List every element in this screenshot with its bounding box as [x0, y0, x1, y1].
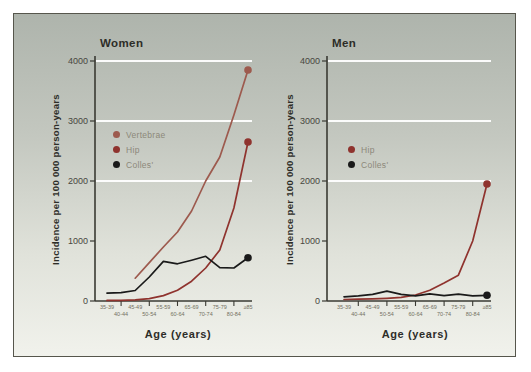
y-tick-label: 4000: [300, 56, 320, 66]
y-tick-label: 2000: [68, 176, 88, 186]
x-tick-label: ≥85: [243, 304, 252, 310]
men-chart-title: Men: [332, 37, 356, 49]
series-end-dot-colles: [483, 292, 491, 300]
men-y-axis-label: Incidence per 100 000 person-years: [284, 55, 295, 305]
y-tick-label: 3000: [300, 116, 320, 126]
women-chart-title: Women: [100, 37, 143, 49]
legend-item-hip: Hip: [113, 142, 166, 157]
men-x-axis-label: Age (years): [335, 328, 495, 340]
figure: 0100020003000400035-3940-4445-4950-5455-…: [0, 0, 531, 372]
x-tick-label: 75-79: [451, 304, 465, 310]
series-end-dot-colles: [244, 254, 252, 262]
legend-item-hip-men: Hip: [348, 142, 388, 157]
y-tick-label: 0: [83, 296, 88, 306]
y-tick-label: 4000: [68, 56, 88, 66]
x-tick-label: 45-49: [366, 304, 380, 310]
legend-label-hip: Hip: [126, 145, 140, 155]
women-legend: Vertebrae Hip Colles': [113, 127, 166, 172]
series-line-vertebrae: [135, 70, 248, 278]
x-tick-label: ≥85: [482, 304, 491, 310]
legend-label-colles-men: Colles': [361, 160, 388, 170]
y-tick-label: 1000: [68, 236, 88, 246]
vertebrae-dot-icon: [113, 131, 120, 138]
x-tick-label: 55-59: [394, 304, 408, 310]
x-tick-label: 80-84: [227, 311, 241, 317]
women-y-axis-label: Incidence per 100 000 person-years: [50, 55, 61, 305]
x-tick-label: 70-74: [199, 311, 213, 317]
x-tick-label: 40-44: [351, 311, 365, 317]
series-end-dot-hip: [483, 180, 491, 188]
series-line-hip: [344, 184, 487, 300]
legend-label-vertebrae: Vertebrae: [126, 130, 166, 140]
x-tick-label: 80-84: [466, 311, 480, 317]
x-tick-label: 70-74: [437, 311, 451, 317]
x-tick-label: 50-54: [142, 311, 156, 317]
x-tick-label: 35-39: [337, 304, 351, 310]
series-line-colles: [344, 291, 487, 297]
legend-item-vertebrae: Vertebrae: [113, 127, 166, 142]
y-tick-label: 2000: [300, 176, 320, 186]
x-tick-label: 50-54: [380, 311, 394, 317]
men-legend: Hip Colles': [348, 142, 388, 172]
legend-label-colles: Colles': [126, 160, 153, 170]
x-tick-label: 65-69: [423, 304, 437, 310]
y-tick-label: 1000: [300, 236, 320, 246]
hip-dot-icon: [348, 146, 355, 153]
x-tick-label: 75-79: [213, 304, 227, 310]
series-end-dot-hip: [244, 138, 252, 146]
legend-item-colles-men: Colles': [348, 157, 388, 172]
y-tick-label: 3000: [68, 116, 88, 126]
x-tick-label: 65-69: [185, 304, 199, 310]
series-line-colles: [107, 256, 248, 293]
x-tick-label: 40-44: [114, 311, 128, 317]
series-end-dot-vertebrae: [244, 66, 252, 74]
hip-dot-icon: [113, 146, 120, 153]
x-tick-label: 35-39: [100, 304, 114, 310]
colles-dot-icon: [348, 161, 355, 168]
colles-dot-icon: [113, 161, 120, 168]
charts-svg: 0100020003000400035-3940-4445-4950-5455-…: [0, 0, 531, 372]
legend-item-colles: Colles': [113, 157, 166, 172]
x-tick-label: 55-59: [156, 304, 170, 310]
legend-label-hip-men: Hip: [361, 145, 375, 155]
y-tick-label: 0: [315, 296, 320, 306]
x-tick-label: 60-64: [170, 311, 184, 317]
x-tick-label: 45-49: [128, 304, 142, 310]
x-tick-label: 60-64: [408, 311, 422, 317]
women-x-axis-label: Age (years): [98, 328, 258, 340]
